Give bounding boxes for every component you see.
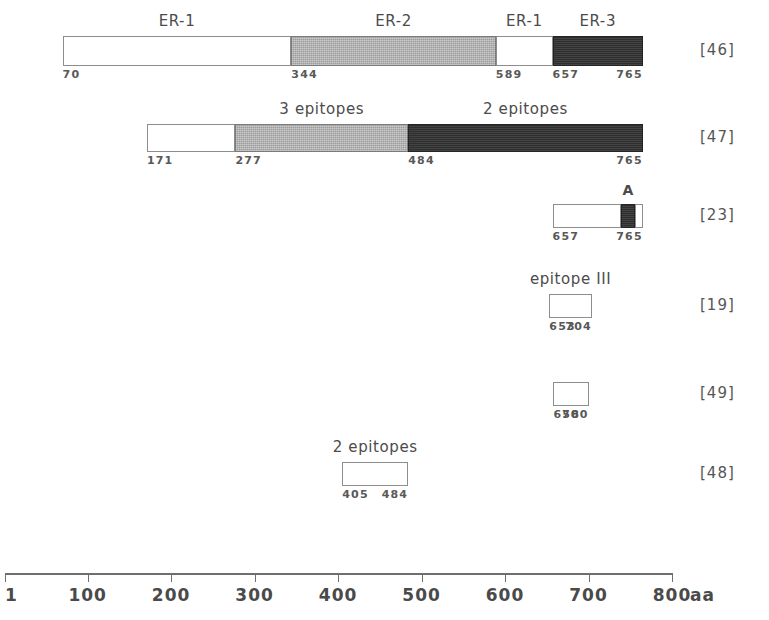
construct-segment <box>621 204 635 228</box>
construct-segment <box>408 124 643 152</box>
reference-citation: [47] <box>700 128 735 146</box>
reference-citation: [19] <box>700 296 735 314</box>
axis-tick <box>171 573 172 582</box>
segment-label: 3 epitopes <box>279 100 364 118</box>
reference-citation: [46] <box>700 41 735 59</box>
position-label: 70 <box>63 68 81 81</box>
position-label: 657 <box>553 230 580 243</box>
reference-citation: [49] <box>700 384 735 402</box>
axis-tick <box>505 573 506 582</box>
axis-tick-label: 800 <box>653 585 692 605</box>
construct-segment <box>147 124 235 152</box>
axis-tick-label: 700 <box>569 585 608 605</box>
axis-tick-label: 1 <box>5 585 18 605</box>
position-label: 704 <box>565 320 592 333</box>
axis-tick-label: 600 <box>486 585 525 605</box>
position-label: 484 <box>408 154 435 167</box>
segment-label: ER-2 <box>375 12 412 30</box>
axis-unit-label: aa <box>690 585 715 605</box>
position-label: 344 <box>291 68 318 81</box>
construct-bar <box>342 462 408 486</box>
segment-label: ER-3 <box>579 12 616 30</box>
axis-tick-label: 100 <box>68 585 107 605</box>
position-label: 171 <box>147 154 174 167</box>
position-label: 700 <box>562 408 589 421</box>
construct-bar <box>63 36 643 66</box>
construct-bar <box>553 204 643 228</box>
construct-segment <box>553 382 588 406</box>
axis-tick <box>338 573 339 582</box>
segment-label: epitope III <box>530 270 611 288</box>
segment-label: 2 epitopes <box>333 438 418 456</box>
axis-tick-label: 500 <box>402 585 441 605</box>
reference-citation: [48] <box>700 464 735 482</box>
axis-tick-label: 300 <box>235 585 274 605</box>
construct-segment <box>235 124 408 152</box>
position-label: 484 <box>382 488 409 501</box>
segment-label: ER-1 <box>159 12 196 30</box>
segment-label: 2 epitopes <box>483 100 568 118</box>
construct-segment <box>553 36 643 66</box>
amino-acid-axis: 1100200300400500600700800aa <box>0 0 769 620</box>
construct-segment <box>291 36 496 66</box>
axis-tick-label: 400 <box>319 585 358 605</box>
position-label: 405 <box>342 488 369 501</box>
construct-bar <box>147 124 643 152</box>
construct-bar <box>549 294 592 318</box>
construct-segment <box>496 36 553 66</box>
position-label: 589 <box>496 68 523 81</box>
axis-line <box>5 573 672 575</box>
position-label: 765 <box>616 68 643 81</box>
construct-segment <box>635 204 643 228</box>
position-label: 657 <box>553 68 580 81</box>
segment-label: ER-1 <box>506 12 543 30</box>
construct-bar <box>553 382 588 406</box>
axis-tick <box>422 573 423 582</box>
construct-segment <box>549 294 592 318</box>
construct-segment <box>63 36 292 66</box>
position-label: 765 <box>616 154 643 167</box>
position-label: 765 <box>616 230 643 243</box>
axis-tick <box>5 573 6 582</box>
axis-tick <box>589 573 590 582</box>
axis-tick-label: 200 <box>152 585 191 605</box>
axis-tick <box>88 573 89 582</box>
axis-tick <box>255 573 256 582</box>
position-label: 277 <box>235 154 262 167</box>
axis-tick <box>672 573 673 582</box>
epitope-map-figure: ER-1ER-2ER-1ER-370344589657765[46]3 epit… <box>0 0 769 620</box>
construct-segment <box>553 204 621 228</box>
construct-segment <box>342 462 408 486</box>
reference-citation: [23] <box>700 206 735 224</box>
segment-label: A <box>622 182 633 198</box>
